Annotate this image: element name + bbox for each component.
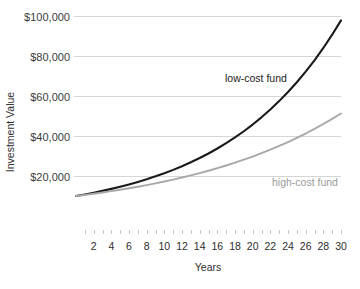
x-axis-tick-label: 4 bbox=[108, 240, 114, 252]
y-axis-tick-label: $100,000 bbox=[24, 11, 70, 23]
x-axis-tick-label: 28 bbox=[317, 240, 329, 252]
x-axis-tick-label: 14 bbox=[194, 240, 206, 252]
y-axis-tick-label: $60,000 bbox=[30, 91, 70, 103]
x-axis-tick-label: 16 bbox=[211, 240, 223, 252]
series-annotation-low-cost-fund: low-cost fund bbox=[225, 72, 287, 84]
y-axis-tick-label: $80,000 bbox=[30, 51, 70, 63]
x-axis-tick-label: 22 bbox=[264, 240, 276, 252]
x-axis-tick-label: 8 bbox=[144, 240, 150, 252]
x-axis-tick-label: 18 bbox=[229, 240, 241, 252]
y-axis-tick-label: $20,000 bbox=[30, 171, 70, 183]
x-axis-tick-label: 20 bbox=[247, 240, 259, 252]
x-axis-tick-label: 24 bbox=[282, 240, 294, 252]
x-axis-tick-label: 2 bbox=[91, 240, 97, 252]
x-axis-title: Years bbox=[195, 261, 221, 273]
x-axis-tick-labels: 24681012141618202224262830 bbox=[91, 240, 347, 252]
series-annotation-high-cost-fund: high-cost fund bbox=[272, 176, 338, 188]
investment-growth-chart: $20,000$40,000$60,000$80,000$100,000 246… bbox=[0, 0, 360, 289]
x-axis-tick-label: 6 bbox=[126, 240, 132, 252]
y-axis-title: Investment Value bbox=[4, 92, 16, 173]
x-axis-tick-label: 12 bbox=[176, 240, 188, 252]
x-axis-tick-label: 30 bbox=[335, 240, 347, 252]
x-axis-tick-label: 10 bbox=[158, 240, 170, 252]
chart-canvas: $20,000$40,000$60,000$80,000$100,000 246… bbox=[0, 0, 360, 289]
y-axis-tick-label: $40,000 bbox=[30, 131, 70, 143]
x-axis-tick-label: 26 bbox=[300, 240, 312, 252]
